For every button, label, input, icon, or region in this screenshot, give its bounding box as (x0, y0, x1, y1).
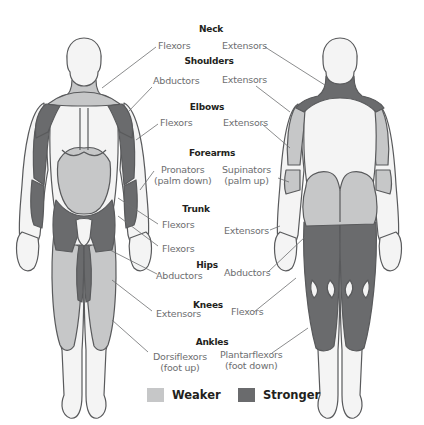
label-neck-back: Extensors (222, 40, 267, 51)
heading-neck: Neck (199, 24, 223, 34)
heading-forearms: Forearms (189, 148, 235, 158)
label-hips-back: Abductors (224, 267, 270, 278)
label-ankles-front-line1: Dorsiflexors (153, 351, 207, 362)
weaker-swatch (147, 388, 164, 402)
heading-trunk: Trunk (182, 204, 209, 214)
label-knees-back: Flexors (231, 306, 263, 317)
legend-stronger: Stronger (238, 388, 320, 402)
label-shoulders-front: Abductors (153, 75, 199, 86)
label-ankles-back: Plantarflexors (foot down) (220, 349, 283, 371)
label-shoulders-back: Extensors (222, 74, 267, 85)
label-trunk-back: Extensors (224, 225, 269, 236)
label-forearms-front-line2: (palm down) (154, 175, 212, 186)
heading-shoulders: Shoulders (184, 56, 233, 66)
label-trunk-front-extra: Flexors (162, 243, 194, 254)
heading-hips: Hips (196, 260, 218, 270)
label-hips-front: Abductors (156, 270, 202, 281)
weaker-label: Weaker (172, 388, 221, 402)
label-knees-front: Extensors (156, 308, 201, 319)
label-ankles-back-line2: (foot down) (220, 360, 283, 371)
heading-ankles: Ankles (196, 337, 229, 347)
front-figure (17, 38, 152, 418)
legend-weaker: Weaker (147, 388, 221, 402)
stronger-swatch (238, 388, 255, 402)
label-ankles-front-line2: (foot up) (153, 362, 207, 373)
label-forearms-front-line1: Pronators (154, 164, 212, 175)
heading-elbows: Elbows (190, 102, 224, 112)
label-ankles-front: Dorsiflexors (foot up) (153, 351, 207, 373)
label-trunk-front: Flexors (162, 219, 194, 230)
label-forearms-back: Supinators (palm up) (222, 164, 271, 186)
label-ankles-back-line1: Plantarflexors (220, 349, 283, 360)
back-figure (275, 38, 402, 418)
label-forearms-back-line1: Supinators (222, 164, 271, 175)
label-neck-front: Flexors (158, 40, 190, 51)
label-forearms-front: Pronators (palm down) (154, 164, 212, 186)
label-forearms-back-line2: (palm up) (222, 175, 271, 186)
label-elbows-back: Extensors (223, 117, 268, 128)
stronger-label: Stronger (263, 388, 320, 402)
label-elbows-front: Flexors (160, 117, 192, 128)
